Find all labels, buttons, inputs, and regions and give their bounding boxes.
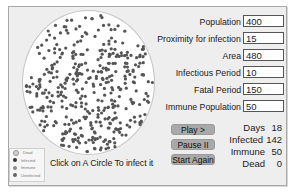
param-label: Population	[200, 16, 241, 27]
legend-item-infected: Infected	[10, 157, 44, 165]
uninfected-swatch-icon	[13, 173, 17, 177]
legend-item-immune: Immune	[10, 164, 44, 172]
area-input[interactable]	[243, 49, 284, 61]
pause-button[interactable]: Pause II	[171, 139, 215, 150]
infectious-period-input[interactable]	[243, 66, 284, 78]
param-label: Infectious Period	[176, 67, 241, 78]
legend-item-dead: Dead	[10, 149, 44, 157]
param-fatal-period: Fatal Period	[160, 82, 284, 96]
population-input[interactable]	[243, 15, 284, 27]
immune-population-input[interactable]	[243, 100, 284, 112]
param-label: Proximity for infection	[157, 33, 241, 44]
stat-days: Days18	[220, 122, 282, 133]
param-label: Area	[223, 50, 241, 61]
play-button[interactable]: Play >	[171, 124, 215, 135]
legend-item-uninfected: Uninfected	[10, 172, 44, 180]
param-area: Area	[160, 48, 284, 62]
dead-value: 0	[268, 158, 282, 169]
param-label: Fatal Period	[194, 84, 241, 95]
infected-swatch-icon	[13, 158, 17, 162]
dead-swatch-icon	[13, 150, 19, 156]
instruction-text: Click on A Circle To infect it	[50, 157, 153, 168]
param-immune-population: Immune Population	[160, 99, 284, 113]
simulation-arena[interactable]	[22, 10, 155, 155]
immune-value: 50	[268, 146, 282, 157]
days-value: 18	[268, 122, 282, 133]
fatal-period-input[interactable]	[243, 83, 284, 95]
proximity-input[interactable]	[243, 32, 284, 44]
legend: Dead Infected Immune Uninfected	[9, 148, 45, 182]
stat-dead: Dead0	[220, 158, 282, 169]
population-dots[interactable]	[23, 11, 156, 156]
infected-value: 142	[266, 134, 282, 145]
stat-infected: Infected142	[220, 134, 282, 145]
param-proximity: Proximity for infection	[160, 31, 284, 45]
param-label: Immune Population	[166, 101, 241, 112]
stat-immune: Immune50	[220, 146, 282, 157]
param-infectious-period: Infectious Period	[160, 65, 284, 79]
param-population: Population	[160, 14, 284, 28]
immune-swatch-icon	[13, 166, 17, 170]
start-again-button[interactable]: Start Again	[171, 154, 215, 165]
